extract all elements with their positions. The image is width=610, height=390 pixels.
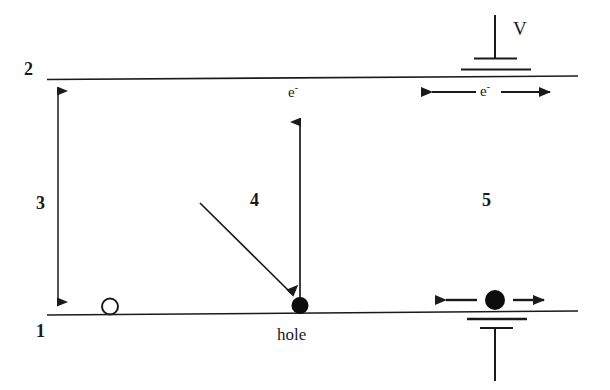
region-label-5: 5 (482, 191, 491, 209)
electron-label-excitation-charge: - (295, 82, 298, 93)
electron-label-drift: e- (480, 84, 490, 99)
hole-particle-dot (292, 297, 309, 314)
region-label-4: 4 (250, 191, 259, 209)
electron-particle-dot (485, 290, 505, 310)
empty-state-circle (102, 299, 118, 315)
conduction-band-line (47, 76, 578, 80)
hole-label: hole (277, 326, 306, 343)
level-label-1: 1 (36, 322, 45, 340)
valence-band-line (47, 311, 578, 315)
photon-absorption-arrow (200, 203, 291, 293)
bandgap-label-3: 3 (36, 194, 45, 212)
band-diagram-figure: 2 3 1 4 5 e- e- hole V (0, 0, 610, 390)
electron-label-excitation: e- (288, 85, 298, 100)
electron-label-excitation-text: e (288, 84, 295, 100)
voltage-label: V (513, 19, 527, 38)
level-label-2: 2 (24, 60, 33, 78)
electron-label-drift-charge: - (487, 81, 490, 92)
electron-label-drift-text: e (480, 83, 487, 99)
